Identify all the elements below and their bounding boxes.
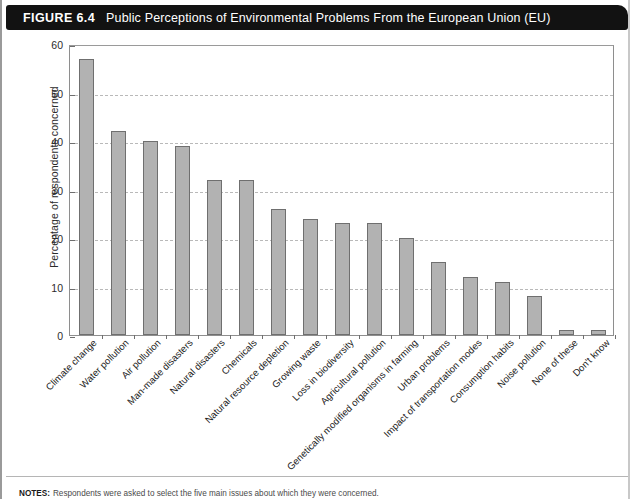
y-tick-label: 0	[33, 330, 63, 342]
bar	[175, 146, 190, 335]
y-tick-label: 40	[33, 136, 63, 148]
x-tick-mark	[615, 335, 616, 339]
figure-number: FIGURE 6.4	[23, 11, 95, 25]
bar	[79, 59, 94, 335]
bar	[335, 223, 350, 335]
bar	[111, 131, 126, 335]
bar	[399, 238, 414, 335]
bars-layer	[70, 46, 613, 335]
y-tick-label: 10	[33, 282, 63, 294]
figure-header: FIGURE 6.4 Public Perceptions of Environ…	[6, 5, 628, 30]
figure-frame: FIGURE 6.4 Public Perceptions of Environ…	[0, 0, 630, 499]
y-tick-label: 20	[33, 233, 63, 245]
bar	[527, 296, 542, 335]
bar	[591, 330, 606, 335]
bar	[495, 282, 510, 335]
y-tick-label: 60	[33, 39, 63, 51]
y-tick-label: 30	[33, 185, 63, 197]
figure-title: Public Perceptions of Environmental Prob…	[106, 11, 550, 25]
x-axis-labels: Climate changeWater pollutionAir polluti…	[69, 337, 614, 472]
bar	[431, 262, 446, 335]
figure-notes: NOTES:Respondents were asked to select t…	[6, 480, 628, 499]
bar	[207, 180, 222, 335]
notes-label: NOTES:	[19, 489, 50, 498]
bar	[143, 141, 158, 335]
bar	[271, 209, 286, 335]
bar	[463, 277, 478, 335]
y-tick-label: 50	[33, 88, 63, 100]
bar	[239, 180, 254, 335]
bar	[559, 330, 574, 335]
bar	[303, 219, 318, 335]
notes-text: Respondents were asked to select the fiv…	[53, 489, 379, 498]
bar	[367, 223, 382, 335]
plot-area	[69, 45, 614, 336]
chart-card: Percentage of respondents concerned 0102…	[6, 31, 628, 477]
